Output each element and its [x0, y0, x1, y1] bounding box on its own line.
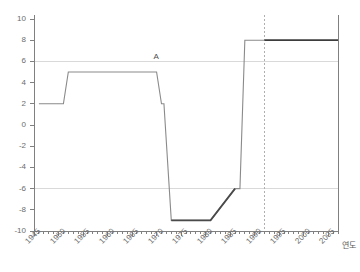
y-tick-marks: [30, 19, 34, 231]
data-lines: [39, 40, 338, 220]
y-tick-label-8: 8: [0, 36, 26, 44]
gridlines: [34, 61, 338, 188]
y-tick-label--10: -10: [0, 227, 26, 235]
axes: [34, 15, 338, 231]
chart-container: 1086420-2-4-6-8-10 194519501955196019651…: [0, 0, 360, 272]
y-tick-label-0: 0: [0, 121, 26, 129]
y-tick-label--4: -4: [0, 163, 26, 171]
annotation-a: A: [154, 53, 159, 61]
y-tick-label-2: 2: [0, 100, 26, 108]
y-tick-label--2: -2: [0, 142, 26, 150]
y-tick-label--8: -8: [0, 206, 26, 214]
line-series-a-emphasis: [171, 189, 235, 221]
y-tick-label-4: 4: [0, 79, 26, 87]
x-axis-title: 연도: [342, 241, 356, 250]
y-tick-label--6: -6: [0, 185, 26, 193]
y-tick-label-6: 6: [0, 57, 26, 65]
y-tick-label-10: 10: [0, 15, 26, 23]
